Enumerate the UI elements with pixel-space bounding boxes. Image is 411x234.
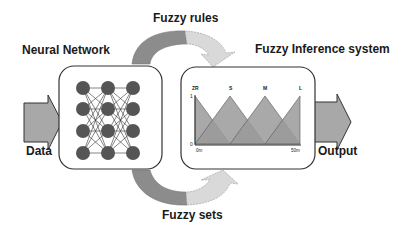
- nn-node: [101, 102, 115, 116]
- fuzzy-inference-label: Fuzzy Inference system: [255, 42, 390, 56]
- fuzzy-sets-arrow: [132, 170, 238, 205]
- nn-node: [126, 102, 140, 116]
- data-label: Data: [26, 144, 52, 158]
- nn-node: [76, 146, 90, 160]
- set-label-l: L: [299, 85, 302, 91]
- nn-node: [126, 146, 140, 160]
- y-tick-1: 1: [190, 93, 193, 99]
- nn-node: [101, 146, 115, 160]
- nn-node: [101, 124, 115, 138]
- nn-node: [126, 81, 140, 95]
- fuzzy-sets-label: Fuzzy sets: [162, 208, 223, 222]
- set-label-zr: ZR: [192, 85, 199, 91]
- output-arrow: [313, 94, 351, 150]
- data-input-arrow: [24, 95, 62, 150]
- x-tick-0m: 0m: [196, 148, 203, 153]
- fuzzy-rules-arrow: [132, 31, 235, 67]
- nn-node: [76, 124, 90, 138]
- x-tick-50m: 50m: [291, 148, 300, 153]
- nn-node: [101, 81, 115, 95]
- set-label-m: M: [263, 85, 267, 91]
- y-tick-0: 0: [190, 141, 193, 147]
- fuzzy-rules-label: Fuzzy rules: [153, 11, 218, 25]
- neural-network-label: Neural Network: [22, 43, 110, 57]
- nn-node: [126, 124, 140, 138]
- nn-node: [76, 81, 90, 95]
- nn-node: [76, 102, 90, 116]
- diagram-canvas: ZR S M L 1 0 0m 50m: [0, 0, 411, 234]
- output-label: Output: [318, 144, 357, 158]
